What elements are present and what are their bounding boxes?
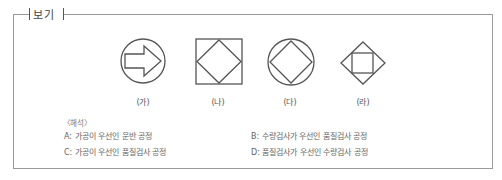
- header-bracket-right: [63, 8, 64, 20]
- header-line-left: [13, 14, 30, 15]
- interpretation-item-c: C: 가공이 우선인 품질검사 공정: [64, 146, 166, 157]
- interpretation-item-b: B: 수량검사가 우선인 품질검사 공정: [251, 130, 367, 141]
- circle-arrow-icon: [117, 38, 169, 84]
- figure-label-ga: (가): [123, 96, 163, 107]
- header-line-right: [64, 14, 493, 15]
- header-bracket-left: [29, 8, 30, 20]
- interpretation-title: 〈해석〉: [63, 117, 91, 128]
- square-diamond-icon: [194, 38, 244, 86]
- header-title: 보기: [31, 6, 56, 22]
- diamond-square-icon: [340, 41, 386, 85]
- figure-label-ra: (라): [343, 96, 383, 107]
- figure-label-na: (나): [198, 96, 238, 107]
- interpretation-item-d: D: 품질검사가 우선인 수량검사 공정: [251, 146, 368, 157]
- circle-diamond-icon: [266, 38, 316, 86]
- figure-label-da: (다): [270, 96, 310, 107]
- interpretation-item-a: A: 가공이 우선인 운반 공정: [64, 130, 152, 141]
